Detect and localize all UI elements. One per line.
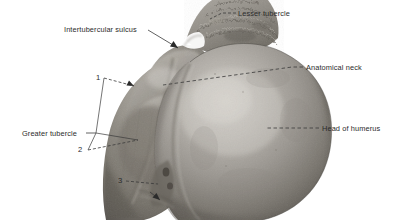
label-head-of-humerus: Head of humerus <box>322 124 380 133</box>
label-greater-tubercle: Greater tubercle <box>22 129 77 138</box>
label-anatomical-neck: Anatomical neck <box>306 63 362 72</box>
label-lesser-tubercle: Lesser tubercle <box>238 9 290 18</box>
anatomy-figure: Lesser tubercle Intertubercular sulcus A… <box>0 0 402 220</box>
callout-number-1: 1 <box>96 73 100 82</box>
humerus-specimen-image <box>0 0 402 220</box>
callout-number-3: 3 <box>118 176 122 185</box>
callout-number-2: 2 <box>78 145 82 154</box>
label-intertubercular-sulcus: Intertubercular sulcus <box>64 25 137 34</box>
